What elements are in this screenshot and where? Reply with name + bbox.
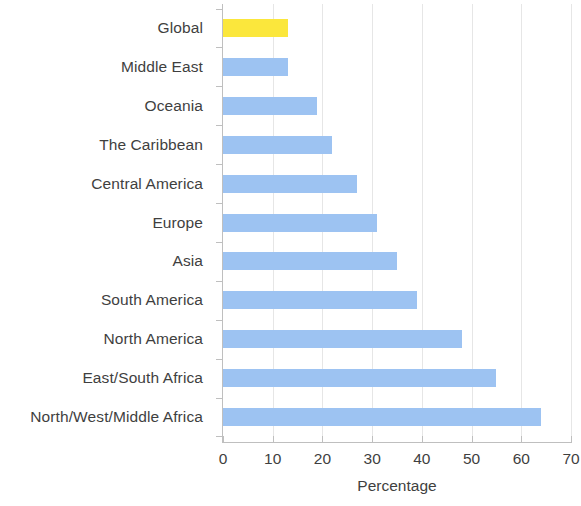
x-tick <box>521 436 522 443</box>
x-tick-label: 0 <box>203 449 243 468</box>
y-tick <box>216 125 223 126</box>
x-tick <box>322 436 323 443</box>
category-label: North/West/Middle Africa <box>0 408 203 426</box>
y-tick <box>216 436 223 437</box>
bar-chart: GlobalMiddle EastOceaniaThe CaribbeanCen… <box>0 0 581 506</box>
category-label: Oceania <box>0 97 203 115</box>
x-tick <box>223 436 224 443</box>
x-tick-label: 70 <box>551 449 581 468</box>
x-tick <box>273 436 274 443</box>
x-tick-label: 60 <box>501 449 541 468</box>
category-label: East/South Africa <box>0 369 203 387</box>
y-tick <box>216 242 223 243</box>
plot-bars <box>223 0 571 443</box>
y-tick <box>216 359 223 360</box>
y-tick <box>216 9 223 10</box>
category-label: Europe <box>0 214 203 232</box>
y-tick <box>216 398 223 399</box>
category-label: Central America <box>0 175 203 193</box>
x-tick-label: 10 <box>253 449 293 468</box>
bar <box>223 19 288 37</box>
bar <box>223 214 377 232</box>
y-tick <box>216 320 223 321</box>
bar <box>223 330 462 348</box>
bar <box>223 97 317 115</box>
bar <box>223 175 357 193</box>
x-tick-label: 30 <box>352 449 392 468</box>
bar <box>223 408 541 426</box>
y-tick <box>216 164 223 165</box>
gridline-70 <box>571 4 572 443</box>
y-tick <box>216 47 223 48</box>
x-tick <box>372 436 373 443</box>
x-tick <box>571 436 572 443</box>
bar <box>223 369 496 387</box>
y-tick <box>216 203 223 204</box>
category-label: Middle East <box>0 58 203 76</box>
y-axis-category-labels: GlobalMiddle EastOceaniaThe CaribbeanCen… <box>0 0 213 443</box>
x-axis-title: Percentage <box>223 476 571 495</box>
x-tick-label: 20 <box>302 449 342 468</box>
bar <box>223 136 332 154</box>
x-axis-line <box>222 442 572 443</box>
x-tick <box>422 436 423 443</box>
bar <box>223 252 397 270</box>
bar <box>223 291 417 309</box>
y-axis-line <box>222 4 223 443</box>
category-label: The Caribbean <box>0 136 203 154</box>
x-tick <box>472 436 473 443</box>
category-label: Asia <box>0 252 203 270</box>
category-label: Global <box>0 19 203 37</box>
x-tick-label: 50 <box>452 449 492 468</box>
y-tick <box>216 86 223 87</box>
x-tick-label: 40 <box>402 449 442 468</box>
category-label: North America <box>0 330 203 348</box>
bar <box>223 58 288 76</box>
y-tick <box>216 281 223 282</box>
category-label: South America <box>0 291 203 309</box>
